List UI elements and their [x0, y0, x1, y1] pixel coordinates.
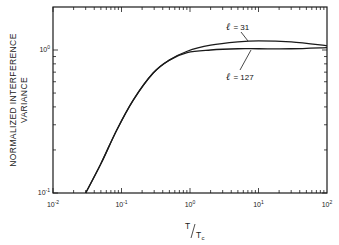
- x-axis-title: T Tc: [185, 221, 205, 241]
- x-axis-title-numerator: T: [185, 221, 191, 231]
- axis-tick-labels: 10-210-110010110210-1100: [38, 44, 333, 208]
- x-axis-title-slash: [191, 224, 195, 238]
- x-tick-label: 10-2: [47, 199, 59, 208]
- annotation-l127-label: ℓ = 127: [226, 71, 254, 82]
- x-tick-label: 102: [322, 199, 333, 208]
- annotation-l127-leader: [240, 50, 251, 70]
- y-tick-label: 10-1: [38, 187, 50, 196]
- plot-frame: [53, 7, 327, 193]
- x-tick-label: 10-1: [115, 199, 127, 208]
- x-axis-title-denominator: Tc: [196, 230, 205, 241]
- y-axis-title-line2: VARIANCE: [19, 77, 29, 123]
- x-tick-label: 101: [253, 199, 264, 208]
- y-axis-title: NORMALIZED INTERFERENCE VARIANCE: [8, 33, 29, 166]
- y-axis-title-line1: NORMALIZED INTERFERENCE: [8, 33, 18, 166]
- x-tick-label: 100: [185, 199, 196, 208]
- annotation-l31-label: ℓ = 31: [226, 21, 250, 32]
- series-line-l31: [86, 41, 327, 193]
- annotation-l31: ℓ = 31: [226, 21, 250, 41]
- series-line-l127: [86, 48, 327, 193]
- axis-ticks: [53, 7, 327, 193]
- chart: 10-210-110010110210-1100 ℓ = 31 ℓ = 127 …: [0, 0, 339, 245]
- annotation-l31-leader: [241, 32, 248, 41]
- data-series: [86, 41, 327, 193]
- annotation-l127: ℓ = 127: [226, 50, 254, 82]
- y-tick-label: 100: [39, 44, 50, 53]
